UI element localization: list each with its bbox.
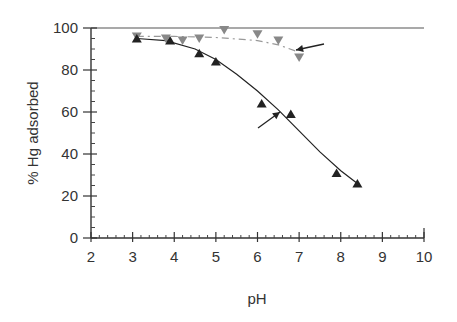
data-points: [132, 26, 363, 187]
triangle-down-marker: [194, 35, 204, 44]
triangle-up-marker: [257, 99, 267, 108]
fit-curves: [137, 36, 358, 183]
x-tick-label: 5: [212, 248, 220, 265]
y-tick-label: 100: [53, 19, 78, 36]
triangle-down-marker: [253, 30, 263, 39]
axes: 0204060801002345678910: [53, 19, 432, 265]
x-tick-label: 3: [128, 248, 136, 265]
x-tick-label: 6: [253, 248, 261, 265]
arrow-icon: [272, 112, 280, 119]
triangle-down-marker: [219, 26, 229, 34]
x-tick-label: 4: [170, 248, 178, 265]
y-tick-label: 80: [61, 61, 78, 78]
x-axis-label: pH: [247, 290, 266, 307]
y-tick-label: 40: [61, 145, 78, 162]
x-tick-label: 8: [337, 248, 345, 265]
y-tick-label: 0: [70, 229, 78, 246]
y-tick-label: 20: [61, 187, 78, 204]
arrow-icon: [296, 45, 304, 52]
triangle-up-marker: [286, 110, 296, 119]
x-tick-label: 10: [416, 248, 433, 265]
x-tick-label: 7: [295, 248, 303, 265]
y-tick-label: 60: [61, 103, 78, 120]
x-tick-label: 2: [87, 248, 95, 265]
y-axis-label: % Hg adsorbed: [24, 81, 41, 184]
chart: 0204060801002345678910 pH % Hg adsorbed: [0, 0, 457, 322]
x-tick-label: 9: [378, 248, 386, 265]
triangle-down-marker: [294, 53, 304, 62]
